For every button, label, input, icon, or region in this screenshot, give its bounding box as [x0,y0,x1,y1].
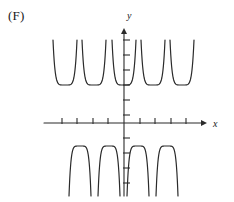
curve-branch-above-3 [141,40,165,85]
x-axis-label: x [212,118,218,129]
curve-branch-below-0 [69,146,91,196]
y-axis-label: y [126,10,132,21]
graph-canvas: x y [0,0,234,202]
curve-branch-below-3 [156,146,178,196]
axes-group [44,28,207,196]
y-axis-arrowhead [121,28,127,34]
curve-branch-below-2 [127,146,149,196]
curve-branch-below-1 [98,146,120,196]
figure-container: (F) x y [0,0,234,202]
curve-branch-above-4 [170,40,194,85]
curve-branch-above-1 [82,40,106,85]
x-axis-arrowhead [201,120,207,126]
curve-branch-above-0 [53,40,77,85]
